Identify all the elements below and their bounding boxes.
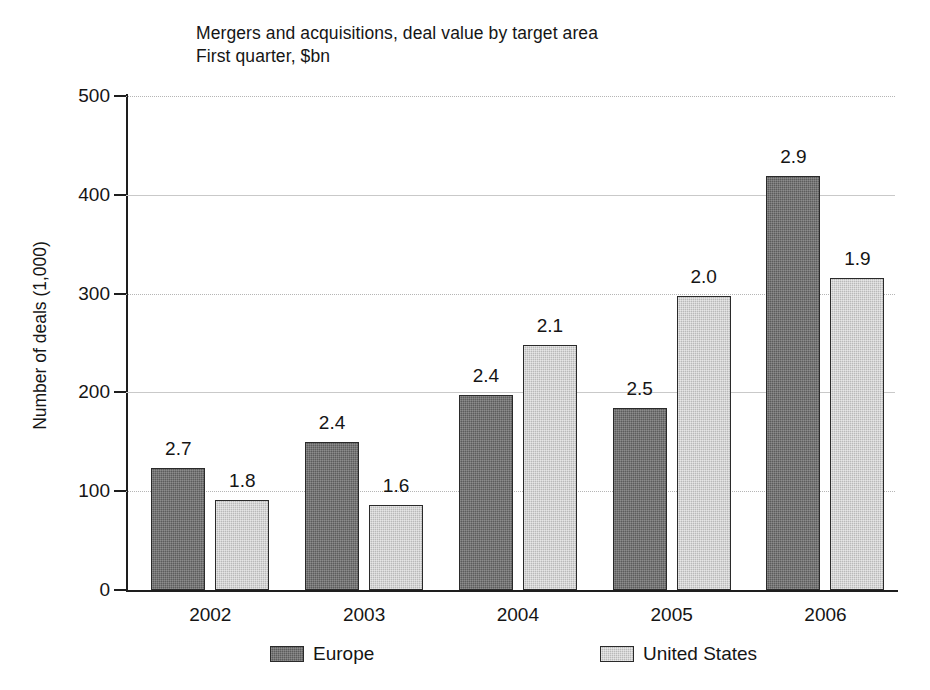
bar-value-label: 1.6	[383, 475, 409, 497]
legend-label: United States	[643, 643, 757, 665]
bar-united-states-2006	[830, 278, 884, 590]
y-axis-tick	[114, 194, 126, 196]
bar-value-label: 2.4	[319, 412, 345, 434]
bar-value-label: 1.9	[844, 248, 870, 270]
bar-value-label: 2.7	[165, 438, 191, 460]
y-axis-tick	[114, 293, 126, 295]
bar-value-label: 1.8	[229, 470, 255, 492]
chart-subtitle: First quarter, $bn	[196, 45, 598, 68]
x-tick-label-2006: 2006	[804, 604, 846, 626]
bar-value-label: 2.0	[690, 266, 716, 288]
bar-europe-2003	[305, 442, 359, 590]
chart-title-block: Mergers and acquisitions, deal value by …	[196, 22, 598, 68]
x-tick-label-2002: 2002	[189, 604, 231, 626]
bar-europe-2004	[459, 395, 513, 590]
chart-title: Mergers and acquisitions, deal value by …	[196, 22, 598, 45]
legend-swatch-icon	[600, 646, 634, 662]
bar-united-states-2003	[369, 505, 423, 590]
bar-united-states-2005	[677, 296, 731, 590]
x-tick-label-2004: 2004	[497, 604, 539, 626]
y-tick-label: 0	[40, 579, 110, 601]
y-tick-label: 400	[40, 184, 110, 206]
bar-united-states-2002	[215, 500, 269, 590]
chart-legend: EuropeUnited States	[0, 643, 930, 673]
bar-value-label: 2.1	[537, 315, 563, 337]
y-axis-tick	[114, 589, 126, 591]
x-tick-label-2005: 2005	[651, 604, 693, 626]
x-axis-line	[126, 590, 898, 592]
bar-europe-2005	[613, 408, 667, 590]
bar-europe-2002	[151, 468, 205, 590]
legend-label: Europe	[313, 643, 374, 665]
legend-item-europe[interactable]: Europe	[270, 643, 374, 665]
y-axis-label: Number of deals (1,000)	[30, 186, 51, 486]
y-tick-label: 500	[40, 85, 110, 107]
y-tick-label: 200	[40, 381, 110, 403]
gridline	[126, 96, 895, 98]
legend-swatch-icon	[270, 646, 304, 662]
y-tick-label: 300	[40, 283, 110, 305]
bar-europe-2006	[766, 176, 820, 590]
bar-value-label: 2.5	[626, 378, 652, 400]
bar-value-label: 2.4	[473, 365, 499, 387]
y-tick-label: 100	[40, 480, 110, 502]
y-axis-tick	[114, 391, 126, 393]
y-axis-tick	[114, 490, 126, 492]
bar-united-states-2004	[523, 345, 577, 590]
x-tick-label-2003: 2003	[343, 604, 385, 626]
legend-item-united-states[interactable]: United States	[600, 643, 757, 665]
plot-area: 2.71.82.41.62.42.12.52.02.91.9	[126, 96, 895, 590]
y-axis-tick	[114, 95, 126, 97]
chart-figure: Mergers and acquisitions, deal value by …	[0, 0, 930, 690]
bar-value-label: 2.9	[780, 146, 806, 168]
